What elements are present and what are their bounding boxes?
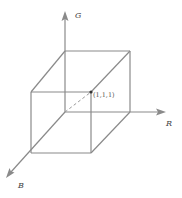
rgb-cube-diagram: G R B (1,1,1) (0, 0, 182, 198)
cube (31, 51, 130, 153)
g-axis-label: G (75, 11, 82, 20)
r-axis: R (65, 109, 172, 129)
b-axis-label: B (17, 181, 24, 190)
b-axis: B (6, 112, 65, 190)
cube-edge-top-right-depth (91, 51, 130, 92)
b-axis-line (11, 112, 65, 172)
white-point-label: (1,1,1) (93, 91, 115, 99)
cube-edge-bottom-right-depth (91, 112, 130, 153)
r-axis-label: R (165, 119, 172, 128)
g-axis: G (62, 11, 83, 112)
gray-diagonal-line (65, 92, 91, 112)
cube-edge-top-left-depth (31, 51, 65, 92)
